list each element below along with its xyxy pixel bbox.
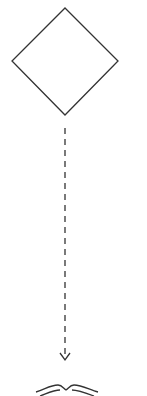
arrowhead-icon bbox=[60, 353, 70, 360]
diagram-canvas bbox=[0, 0, 147, 396]
decision-diamond bbox=[12, 8, 118, 115]
book-shape bbox=[36, 385, 98, 396]
